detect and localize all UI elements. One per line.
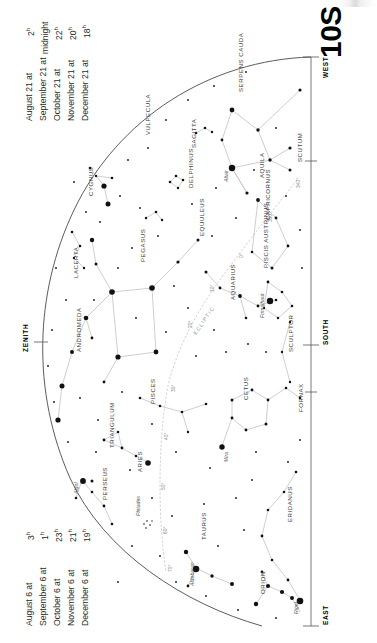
constellation-label: ERIDANUS [286, 486, 293, 522]
star-label: Pleiades [135, 496, 141, 516]
constellation-label: FORNAX [297, 383, 304, 412]
constellation-label: PISCIS AUSTRINUS [262, 203, 269, 268]
star-chart-page: 10S August 21 at 2h September 21 at midn… [0, 0, 377, 643]
constellation-label: EQUULEUS [198, 198, 205, 236]
constellation-label: TAURUS [200, 512, 207, 540]
degree-mark: 0° [239, 253, 244, 258]
degree-mark: 70° [168, 565, 173, 572]
constellation-label: TRIANGULUM [108, 402, 115, 448]
direction-label-zenith: ZENITH [22, 324, 29, 352]
star-label: Fomalhaut [259, 293, 265, 318]
constellation-label: ANDROMEDA [75, 307, 82, 352]
constellation-label: PERSEUS [101, 467, 108, 500]
constellation-label: ARIES [136, 451, 143, 472]
star-label: Algol [73, 482, 79, 495]
degree-mark: 40° [164, 433, 169, 440]
constellation-label: SCULPTOR [287, 314, 294, 352]
ecliptic-degree-marks: 340° 350° 0° 10° 20° 30° 40° 50° 60° 70° [161, 178, 301, 572]
constellation-label: PEGASUS [139, 229, 146, 262]
constellation-label: CETUS [242, 377, 249, 400]
degree-mark: 60° [163, 527, 168, 534]
degree-mark: 50° [161, 483, 166, 490]
horizon-arc [43, 57, 311, 626]
ecliptic-path [160, 180, 297, 572]
constellation-label: CYGNUS [87, 167, 94, 196]
horizon-baseline [303, 57, 319, 626]
star-label: Altair [223, 170, 229, 183]
constellation-label: PISCES [149, 378, 156, 404]
constellation-label: DELPHINUS [187, 148, 194, 188]
direction-label-west: WEST [322, 57, 329, 78]
degree-mark: 30° [171, 385, 176, 392]
degree-mark: 20° [188, 321, 193, 328]
constellation-label: LACERTA [72, 246, 79, 278]
star-label: Aldebaran [189, 562, 195, 587]
ecliptic-label: ECLIPTIC [192, 305, 216, 335]
constellation-label: VULPECULA [144, 93, 151, 135]
constellation-label: SERPENS CAUDA [237, 32, 244, 92]
sky-map: WEST SOUTH EAST ZENITH ECLIPTIC 340° 350… [0, 0, 377, 643]
star-label: Mira [223, 452, 229, 462]
direction-label-east: EAST [322, 605, 329, 625]
constellation-label: SCUTUM [296, 133, 303, 162]
direction-label-south: SOUTH [322, 319, 329, 345]
constellation-label: ORION [259, 571, 266, 594]
constellation-label: SAGITTA [190, 118, 197, 148]
degree-mark: 340° [296, 178, 301, 188]
star-label: Rigel [293, 601, 299, 614]
degree-mark: 10° [210, 285, 215, 292]
pleiades-cluster [143, 520, 153, 529]
constellation-label: AQUARIUS [229, 264, 236, 300]
